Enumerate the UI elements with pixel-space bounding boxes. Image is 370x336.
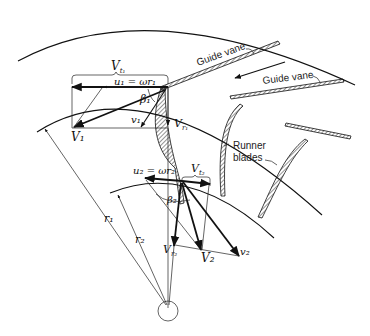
runner-blades-leader-2 [265, 160, 277, 165]
guide-vane-2-leader [313, 76, 320, 82]
turbine-diagram: Guide vane Guide vane Runner blades Vt₁ … [0, 0, 370, 336]
Vr2-vector [174, 183, 181, 246]
r2-line [118, 195, 167, 305]
label-runner-blades-1: Runner [233, 140, 266, 151]
runner-outlet-arc [110, 183, 274, 238]
label-guide-vane-2: Guide vane [262, 69, 315, 86]
label-beta2: β₂ [166, 194, 177, 205]
runner-blade-1 [155, 88, 184, 204]
label-V2: V₂ [201, 251, 215, 265]
label-Vt1: Vt₁ [111, 59, 125, 75]
label-u1-eq: u₁ = ωr₁ [114, 76, 156, 87]
label-Vr1: Vr₁ [174, 117, 188, 132]
label-v2: v₂ [240, 246, 250, 257]
vt2-right-edge [202, 185, 209, 250]
label-runner-blades-2: blades [233, 152, 262, 163]
label-r2: r₂ [135, 233, 145, 246]
label-u2-eq: u₂ = ωr₂ [133, 165, 175, 176]
label-beta1: β₁ [139, 93, 151, 106]
guide-vane-lower [285, 123, 351, 139]
label-v1: v₁ [131, 114, 141, 125]
label-V1: V₁ [71, 130, 84, 144]
u2-construction [146, 180, 201, 250]
label-Vt2: Vt₂ [191, 162, 205, 177]
label-r1: r₁ [104, 212, 114, 225]
Vt2-vector [182, 181, 210, 184]
